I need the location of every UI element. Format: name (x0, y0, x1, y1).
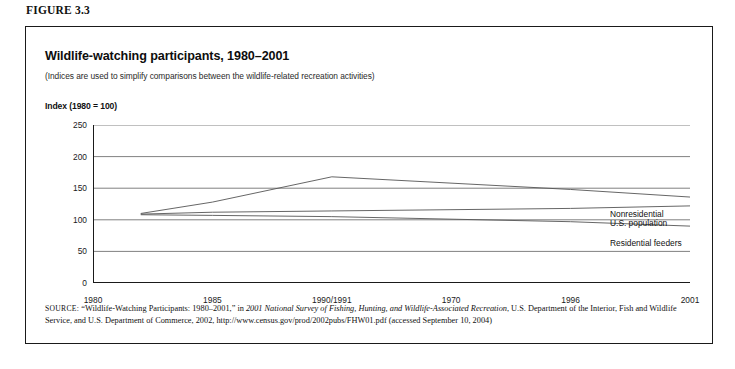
chart-title: Wildlife-watching participants, 1980–200… (45, 49, 289, 63)
chart-subtitle: (Indices are used to simplify comparison… (45, 71, 375, 81)
source-prefix: SOURCE: (45, 304, 79, 313)
source-note: SOURCE: “Wildlife-Watching Participants:… (45, 303, 696, 326)
source-title-italic: 2001 National Survey of Fishing, Hunting… (246, 304, 507, 313)
y-tick-label: 100 (45, 215, 87, 225)
chart-plot-area: 050100150200250 198019851990/19911970199… (45, 119, 695, 289)
series-line (141, 215, 690, 226)
y-tick-label: 200 (45, 152, 87, 162)
y-tick-label: 0 (45, 278, 87, 288)
y-tick-label: 250 (45, 120, 87, 130)
y-tick-label: 150 (45, 183, 87, 193)
figure-caption: FIGURE 3.3 (26, 4, 90, 16)
figure-page: FIGURE 3.3 Wildlife-watching participant… (0, 0, 735, 369)
y-tick-label: 50 (45, 246, 87, 256)
chart-canvas (93, 125, 690, 283)
chart-svg (93, 125, 690, 283)
source-text-part1: “Wildlife-Watching Participants: 1980–20… (79, 304, 246, 313)
figure-box: Wildlife-watching participants, 1980–200… (25, 26, 713, 344)
series-label: U.S. population (610, 218, 667, 228)
series-line (141, 206, 690, 214)
series-label: Residential feeders (610, 238, 682, 248)
y-axis-title: Index (1980 = 100) (45, 101, 117, 111)
